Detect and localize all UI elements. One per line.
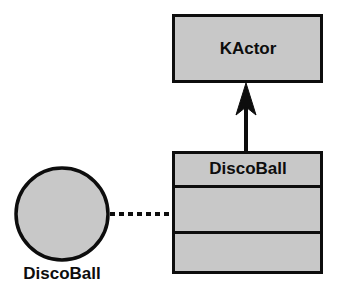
kactor-class-name: KActor <box>220 39 277 58</box>
generalization-edge[interactable] <box>236 83 256 151</box>
discoball-class-name: DiscoBall <box>209 159 286 178</box>
object-node-discoball[interactable]: DiscoBall <box>16 168 108 283</box>
uml-diagram-canvas: KActor DiscoBall DiscoBall <box>0 0 341 303</box>
class-node-discoball[interactable]: DiscoBall <box>174 153 322 273</box>
discoball-object-label: DiscoBall <box>23 264 100 283</box>
uml-diagram-svg: KActor DiscoBall DiscoBall <box>0 0 341 303</box>
class-node-kactor[interactable]: KActor <box>174 16 322 82</box>
discoball-object-circle[interactable] <box>16 168 108 260</box>
